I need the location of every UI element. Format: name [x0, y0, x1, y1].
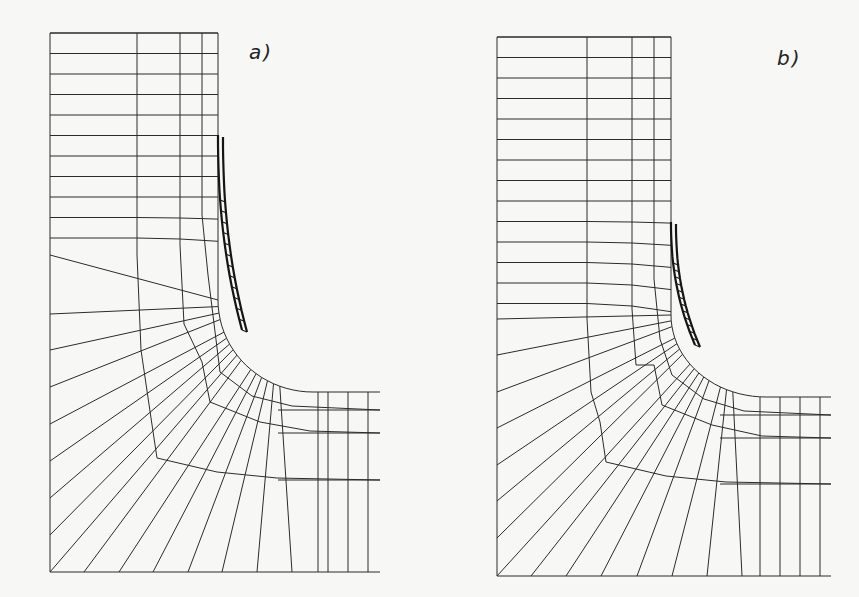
mesh-radial-line — [84, 360, 241, 572]
mesh-near-notch-curve — [654, 37, 831, 415]
mesh-row-line — [497, 242, 671, 245]
mesh-radial-line — [497, 321, 671, 355]
mesh-panel-a — [50, 33, 380, 572]
mesh-inner-curve — [587, 37, 831, 484]
mesh-notch-fillet — [218, 33, 380, 392]
mesh-radial-line — [50, 307, 218, 314]
mesh-radial-line — [531, 369, 694, 576]
mesh-radial-line — [50, 255, 218, 300]
mesh-radial-line — [280, 386, 292, 572]
mesh-radial-line — [601, 377, 704, 576]
mesh-radial-line — [119, 370, 251, 572]
mesh-inner-curve — [137, 33, 380, 480]
mesh-radial-line — [707, 390, 727, 576]
mesh-radial-line — [497, 349, 680, 501]
mesh-radial-line — [497, 338, 675, 428]
mesh-radial-line — [497, 315, 671, 319]
mesh-radial-line — [497, 327, 672, 392]
mesh-mid-curve — [632, 37, 831, 438]
mesh-radial-line — [497, 364, 690, 576]
mesh-row-line — [497, 222, 671, 224]
mesh-row-line — [50, 218, 218, 220]
panel-label-b: b) — [777, 46, 802, 70]
mesh-radial-line — [50, 344, 230, 498]
mesh-radial-line — [50, 332, 224, 424]
mesh-radial-line — [50, 338, 227, 461]
mesh-row-line — [497, 263, 671, 268]
mesh-radial-line — [50, 320, 220, 387]
mesh-figure — [0, 0, 859, 597]
mesh-row-line — [50, 238, 218, 241]
mesh-radial-line — [188, 377, 262, 572]
mesh-panel-b — [497, 37, 831, 576]
mesh-near-notch-curve — [202, 33, 380, 410]
mesh-row-line — [497, 304, 671, 312]
mesh-row-line — [497, 283, 671, 290]
panel-label-a: a) — [249, 40, 273, 64]
mesh-radial-line — [153, 374, 256, 572]
